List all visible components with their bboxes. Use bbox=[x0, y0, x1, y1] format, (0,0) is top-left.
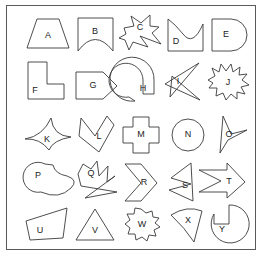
shape-label-i: I bbox=[177, 76, 180, 86]
shape-label-p: P bbox=[35, 170, 41, 180]
shape-cell-o: O bbox=[220, 116, 247, 153]
shape-label-l: L bbox=[96, 131, 101, 141]
shape-cell-u: U bbox=[26, 208, 67, 240]
shape-cell-y: Y bbox=[211, 205, 249, 243]
curved-concave-triangle-outline bbox=[171, 209, 202, 242]
shape-cell-p: P bbox=[23, 162, 74, 195]
shape-cell-q: Q bbox=[78, 161, 117, 198]
shape-label-g: G bbox=[89, 80, 96, 90]
shape-label-k: K bbox=[44, 134, 50, 144]
rounded-end-rectangle-outline bbox=[212, 19, 247, 51]
shape-label-t: T bbox=[226, 176, 232, 186]
shape-cell-h: H bbox=[109, 57, 154, 101]
shape-cell-f: F bbox=[28, 62, 64, 99]
shape-cell-c: C bbox=[119, 15, 161, 50]
shape-cell-s: S bbox=[169, 163, 193, 201]
shape-cell-n: N bbox=[172, 119, 204, 151]
shape-cell-r: R bbox=[125, 164, 157, 201]
pac-man-notched-circle-outline bbox=[211, 205, 249, 243]
shape-label-b: B bbox=[92, 26, 98, 36]
shape-label-v: V bbox=[92, 225, 98, 235]
spiral-swirl-outline bbox=[109, 57, 154, 101]
shape-label-x: X bbox=[185, 215, 191, 225]
jagged-star-with-arrow-notch-outline bbox=[119, 15, 161, 50]
shape-label-e: E bbox=[223, 29, 229, 39]
shape-cell-k: K bbox=[25, 118, 71, 150]
shape-cell-v: V bbox=[76, 209, 114, 240]
shape-label-s: S bbox=[182, 180, 188, 190]
shape-cell-m: M bbox=[123, 117, 159, 153]
shape-label-q: Q bbox=[87, 168, 94, 178]
shape-label-a: A bbox=[45, 30, 51, 40]
shape-label-j: J bbox=[226, 77, 231, 87]
shape-cell-b: B bbox=[78, 18, 113, 51]
concave-dart-triangle-outline bbox=[220, 116, 247, 153]
shape-cell-a: A bbox=[27, 19, 69, 48]
shape-label-c: C bbox=[137, 22, 144, 32]
shape-cell-l: L bbox=[79, 116, 114, 152]
shape-label-d: D bbox=[173, 36, 180, 46]
block-arrow-right-outline bbox=[199, 163, 245, 198]
shape-cell-e: E bbox=[212, 19, 247, 51]
self-intersecting-bowtie-outline bbox=[165, 63, 200, 100]
shape-cell-t: T bbox=[199, 163, 245, 198]
figure-panel: A B C D E F G H bbox=[6, 5, 256, 250]
shape-cell-w: W bbox=[125, 208, 160, 241]
irregular-quadrilateral-outline bbox=[26, 208, 67, 240]
shape-label-u: U bbox=[37, 225, 44, 235]
shape-cell-j: J bbox=[208, 64, 249, 100]
shape-grid: A B C D E F G H bbox=[7, 6, 255, 249]
shape-label-w: W bbox=[138, 219, 147, 229]
shape-cell-d: D bbox=[168, 19, 203, 51]
shape-cell-i: I bbox=[165, 63, 200, 100]
shape-label-f: F bbox=[32, 85, 38, 95]
shape-label-m: M bbox=[137, 129, 145, 139]
shape-label-h: H bbox=[140, 83, 147, 93]
shape-label-n: N bbox=[185, 129, 192, 139]
shape-label-r: R bbox=[141, 177, 148, 187]
jagged-self-intersecting-polygon-outline bbox=[78, 161, 117, 198]
shape-label-y: Y bbox=[219, 224, 225, 234]
crescent-blob-outline bbox=[23, 162, 74, 195]
shape-cell-x: X bbox=[171, 209, 202, 242]
shape-label-o: O bbox=[225, 129, 232, 139]
